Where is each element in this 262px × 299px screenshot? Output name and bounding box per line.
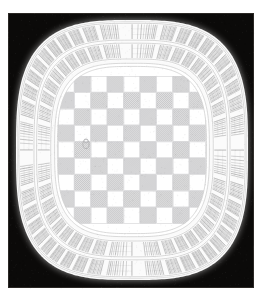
plate-drawing-canvas: [0, 0, 262, 299]
artwork-root: Pencil drawing of a rounded-square plate…: [0, 0, 262, 299]
